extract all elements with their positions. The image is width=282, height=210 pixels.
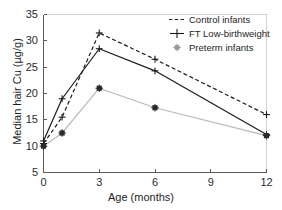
- legend-label-1: FT Low-birthweight: [189, 29, 270, 39]
- legend-marker-icon-0: [168, 14, 186, 25]
- x-tick-9: 9: [197, 177, 225, 188]
- legend-label-2: Preterm infants: [189, 43, 253, 53]
- data-point-2-3: [151, 104, 159, 112]
- legend-label-0: Control infants: [189, 15, 250, 25]
- chart-legend: Control infantsFT Low-birthweightPreterm…: [168, 13, 280, 55]
- series-line-2: [44, 88, 267, 146]
- x-axis-title: Age (months): [0, 192, 282, 203]
- data-point-0-4: [263, 111, 270, 118]
- data-point-0-3: [152, 56, 159, 63]
- x-tick-3: 3: [85, 177, 113, 188]
- y-axis-title: Median hair Cu (µg/g): [12, 17, 23, 167]
- x-tick-6: 6: [141, 177, 169, 188]
- chart-figure: 5101520253035 036912 Age (months) Median…: [0, 0, 282, 210]
- data-point-0-2: [96, 30, 103, 37]
- legend-item-0[interactable]: Control infants: [168, 13, 280, 26]
- data-point-1-3: [152, 67, 159, 74]
- legend-item-2[interactable]: Preterm infants: [168, 41, 280, 54]
- legend-marker-icon-1: [168, 28, 186, 39]
- legend-item-1[interactable]: FT Low-birthweight: [168, 27, 280, 40]
- x-tick-0: 0: [30, 177, 58, 188]
- x-tick-12: 12: [253, 177, 281, 188]
- legend-marker-icon-2: [168, 42, 186, 53]
